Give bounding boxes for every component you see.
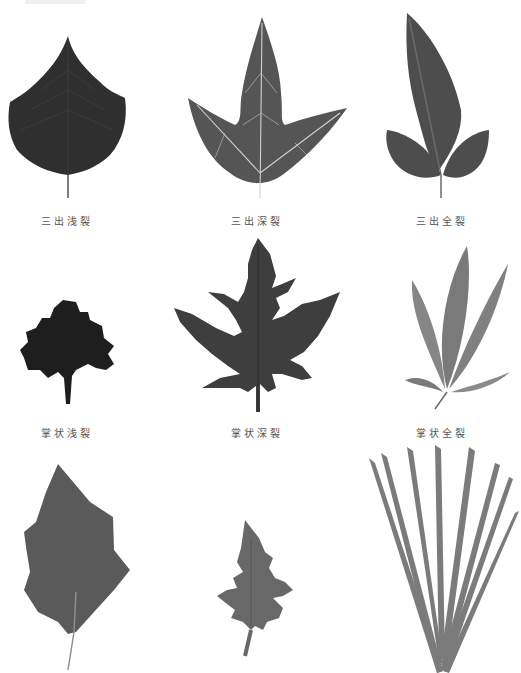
leaf-icon — [185, 13, 350, 203]
leaf-icon — [5, 30, 130, 200]
caption-trifid-full: 三出全裂 — [382, 213, 502, 228]
leaf-icon — [172, 236, 340, 414]
leaf-pinnate-shallow — [18, 462, 133, 672]
caption-trifid-deep: 三出深裂 — [197, 213, 317, 228]
leaf-palmate-shallow — [18, 298, 118, 406]
leaf-trifid-deep — [185, 13, 350, 203]
leaf-icon — [383, 10, 493, 200]
leaf-trifid-shallow — [5, 30, 130, 200]
leaf-icon — [365, 443, 520, 673]
caption-trifid-shallow: 三出浅裂 — [7, 213, 127, 228]
leaf-pinnate-deep — [215, 518, 300, 658]
caption-palmate-deep: 掌状深裂 — [197, 425, 317, 440]
leaf-icon — [395, 244, 515, 412]
faint-header-bleed — [25, 0, 85, 4]
caption-palmate-shallow: 掌状浅裂 — [7, 425, 127, 440]
caption-palmate-full: 掌状全裂 — [382, 425, 502, 440]
leaf-icon — [18, 298, 118, 406]
leaf-palmate-deep — [172, 236, 340, 414]
leaf-icon — [18, 462, 133, 672]
leaf-icon — [215, 518, 300, 658]
leaf-pinnate-full — [365, 443, 520, 673]
leaf-palmate-full — [395, 244, 515, 412]
leaf-trifid-full — [383, 10, 493, 200]
